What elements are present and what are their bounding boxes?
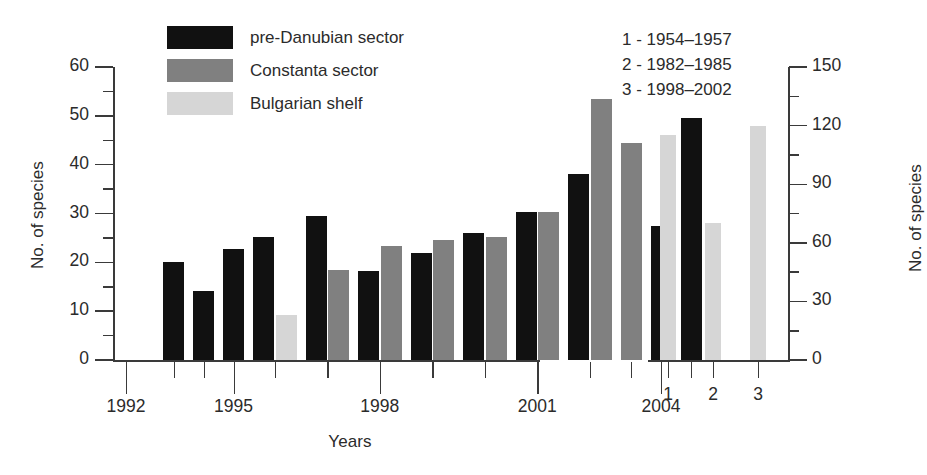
- period-note-3: 3 - 1998–2002: [622, 80, 732, 100]
- main-x-tick-major: [234, 362, 235, 394]
- inset-y-tick-label: 90: [812, 172, 858, 193]
- main-x-tick-major: [537, 362, 538, 394]
- inset-y-tick-major: [789, 66, 807, 68]
- inset-y-tick-major: [789, 125, 807, 127]
- main-y-tick-major: [95, 66, 113, 68]
- main-y-tick-minor: [103, 140, 113, 142]
- main-x-tick-minor: [432, 362, 433, 378]
- legend-label-bulgarian: Bulgarian shelf: [250, 94, 362, 114]
- main-x-tick-label: 1995: [204, 396, 264, 417]
- legend-label-pre_danubian: pre-Danubian sector: [250, 28, 404, 48]
- legend-swatch-bulgarian: [167, 92, 233, 115]
- inset-y-tick-label: 0: [812, 348, 858, 369]
- main-x-tick-minor: [204, 362, 205, 378]
- main-x-axis-title: Years: [0, 432, 700, 452]
- inset-y-tick-label: 30: [812, 289, 858, 310]
- bar-1998-pre-danubian: [358, 271, 379, 360]
- inset-y-tick-minor: [789, 271, 799, 273]
- bar-1999-pre-danubian: [411, 253, 432, 360]
- bar-2001-constanta: [538, 212, 559, 360]
- main-y-tick-minor: [103, 188, 113, 190]
- bar-1996-bulgarian: [276, 315, 297, 360]
- main-x-tick-minor: [327, 362, 328, 378]
- bar-2001-pre-danubian: [516, 212, 537, 360]
- main-x-tick-major: [126, 362, 127, 394]
- period-note-2: 2 - 1982–1985: [622, 55, 732, 75]
- bar-1997-constanta: [328, 270, 349, 360]
- legend-item-pre_danubian[interactable]: pre-Danubian sector: [167, 26, 404, 49]
- main-y-tick-minor: [103, 286, 113, 288]
- main-x-tick-minor: [485, 362, 486, 378]
- bar-2002-pre-danubian: [568, 174, 589, 360]
- inset-x-tick: [758, 362, 759, 378]
- main-y-tick-major: [95, 262, 113, 264]
- bar-1997-pre-danubian: [306, 216, 327, 360]
- inset-y-tick-major: [789, 184, 807, 186]
- main-y-axis-title: No. of species: [28, 161, 48, 269]
- main-y-tick-minor: [103, 237, 113, 239]
- bar-1999-constanta: [433, 240, 454, 360]
- inset-x-tick: [713, 362, 714, 378]
- bar-2005-pre-danubian: [681, 118, 702, 360]
- main-y-tick-label: 0: [0, 348, 89, 369]
- bar-1996-pre-danubian: [253, 237, 274, 360]
- main-y-tick-label: 60: [0, 55, 89, 76]
- main-x-tick-minor: [174, 362, 175, 378]
- inset-x-tick-label: 3: [736, 384, 780, 405]
- legend-item-bulgarian[interactable]: Bulgarian shelf: [167, 92, 362, 115]
- inset-y-tick-label: 60: [812, 231, 858, 252]
- main-y-tick-major: [95, 115, 113, 117]
- main-x-tick-major: [380, 362, 381, 394]
- main-y-tick-major: [95, 359, 113, 361]
- inset-x-tick: [668, 362, 669, 378]
- inset-y-axis-title: No. of species: [906, 164, 926, 272]
- bar-1995-pre-danubian: [223, 249, 244, 360]
- main-x-tick-minor: [275, 362, 276, 378]
- main-x-tick-label: 1998: [350, 396, 410, 417]
- inset-y-tick-major: [789, 359, 807, 361]
- inset-y-tick-minor: [789, 96, 799, 98]
- inset-y-tick-label: 150: [812, 55, 858, 76]
- inset-bar-1: [660, 135, 676, 360]
- bar-2000-pre-danubian: [463, 233, 484, 360]
- main-x-tick-minor: [590, 362, 591, 378]
- inset-x-tick-label: 1: [646, 384, 690, 405]
- legend-item-constanta[interactable]: Constanta sector: [167, 59, 379, 82]
- figure-canvas: 010203040506019921995199820012004No. of …: [0, 0, 927, 475]
- inset-bar-2: [705, 223, 721, 360]
- inset-y-tick-label: 120: [812, 114, 858, 135]
- main-y-tick-label: 10: [0, 299, 89, 320]
- main-y-tick-major: [95, 213, 113, 215]
- inset-y-axis: [788, 67, 790, 362]
- bar-1994-pre-danubian: [193, 291, 214, 360]
- main-y-axis: [113, 67, 115, 362]
- legend-swatch-pre_danubian: [167, 26, 233, 49]
- legend-swatch-constanta: [167, 59, 233, 82]
- main-x-tick-label: 1992: [96, 396, 156, 417]
- main-y-tick-minor: [103, 335, 113, 337]
- inset-y-tick-minor: [789, 213, 799, 215]
- bar-2002-constanta: [591, 99, 612, 360]
- period-note-1: 1 - 1954–1957: [622, 30, 732, 50]
- inset-y-tick-major: [789, 242, 807, 244]
- main-y-tick-label: 50: [0, 104, 89, 125]
- bar-2000-constanta: [486, 237, 507, 360]
- inset-bar-3: [750, 126, 766, 360]
- bar-2003-constanta: [621, 143, 642, 360]
- inset-x-tick-label: 2: [691, 384, 735, 405]
- main-y-tick-major: [95, 310, 113, 312]
- main-y-tick-minor: [103, 91, 113, 93]
- main-y-tick-major: [95, 164, 113, 166]
- main-x-tick-minor: [691, 362, 692, 378]
- bar-1993-pre-danubian: [163, 262, 184, 360]
- main-x-tick-label: 2001: [507, 396, 567, 417]
- inset-y-tick-minor: [789, 154, 799, 156]
- inset-y-tick-minor: [789, 330, 799, 332]
- main-x-tick-minor: [631, 362, 632, 378]
- inset-y-tick-major: [789, 301, 807, 303]
- legend-label-constanta: Constanta sector: [250, 61, 379, 81]
- bar-1998-constanta: [381, 246, 402, 360]
